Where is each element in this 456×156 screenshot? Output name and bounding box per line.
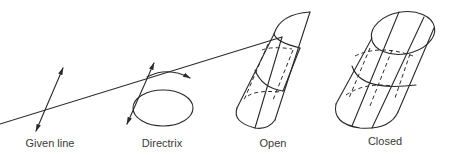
label-open: Open xyxy=(260,137,287,149)
open-cylinder-figure xyxy=(0,12,310,128)
label-closed: Closed xyxy=(368,135,402,147)
closed-cylinder-figure xyxy=(336,7,439,128)
double-arrow-icon xyxy=(36,68,63,131)
cylindrical-surface-diagram xyxy=(0,0,456,156)
directrix-ellipse xyxy=(133,90,193,126)
label-given-line: Given line xyxy=(26,137,75,149)
given-line-figure xyxy=(36,68,63,131)
directrix-figure xyxy=(127,63,193,126)
generator-line-arrow-icon xyxy=(127,63,154,124)
label-directrix: Directrix xyxy=(142,137,182,149)
